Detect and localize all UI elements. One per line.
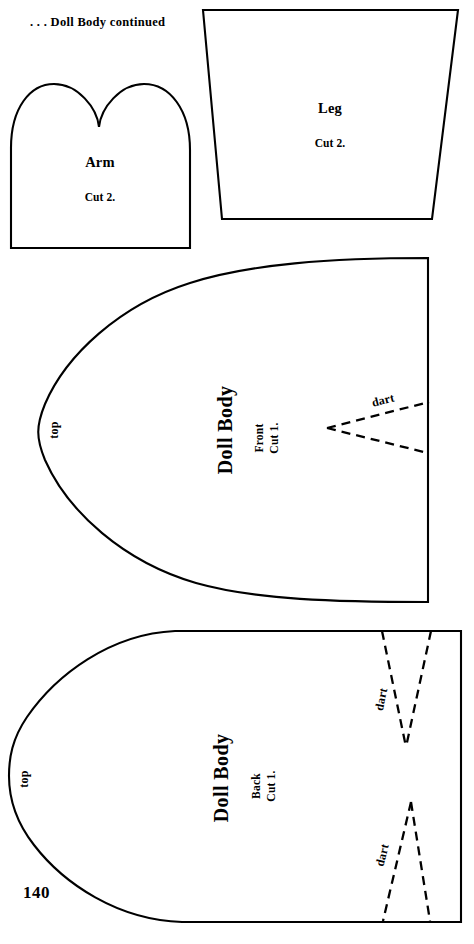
- doll-body-front-label-sub: Front: [253, 424, 265, 453]
- page-header: . . . Doll Body continued: [30, 15, 165, 29]
- doll-body-back-label-sub: Back: [250, 773, 262, 799]
- pattern-piece-arm: Arm Cut 2.: [11, 84, 190, 248]
- pattern-piece-doll-body-front: dart top Doll Body Front Cut 1.: [38, 258, 429, 602]
- doll-body-front-label-cut: Cut 1.: [268, 422, 280, 453]
- pattern-piece-doll-body-back: dart dart top Doll Body Back Cut 1.: [9, 631, 461, 922]
- leg-label-cut: Cut 2.: [315, 137, 346, 149]
- pattern-sheet: . . . Doll Body continued Arm Cut 2. Leg…: [0, 0, 474, 944]
- arm-label-name: Arm: [85, 154, 115, 170]
- arm-label-cut: Cut 2.: [85, 191, 116, 203]
- page-number: 140: [23, 883, 50, 902]
- doll-body-back-label-name: Doll Body: [210, 734, 233, 823]
- leg-label-name: Leg: [318, 100, 343, 116]
- doll-body-back-top-label: top: [17, 770, 31, 787]
- pattern-piece-leg: Leg Cut 2.: [203, 10, 458, 219]
- pattern-page: . . . Doll Body continued Arm Cut 2. Leg…: [0, 0, 474, 944]
- doll-body-back-label-cut: Cut 1.: [265, 770, 277, 801]
- doll-body-front-top-label: top: [47, 421, 61, 438]
- doll-body-front-label-name: Doll Body: [214, 386, 237, 475]
